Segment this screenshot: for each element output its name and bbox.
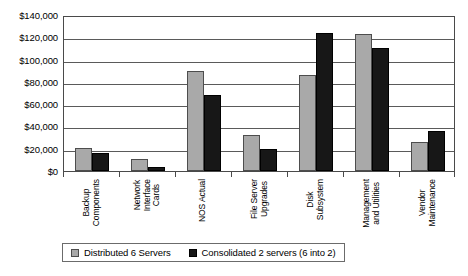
legend-item-label: Consolidated 2 servers (6 into 2)	[202, 248, 336, 258]
x-axis-category-label: Managementand Utilities	[348, 179, 394, 235]
y-axis-tick-label: $0	[2, 167, 58, 177]
x-axis-tick	[175, 172, 176, 177]
x-axis-category-label: BackupComponents	[68, 179, 114, 235]
x-axis-category-label: VendorMaintenance	[404, 179, 450, 235]
x-axis-tick	[454, 172, 455, 177]
bar	[204, 95, 221, 171]
y-axis-tick-label: $20,000	[2, 145, 58, 155]
x-axis: BackupComponentsNetworkInterfaceCardsNOS…	[63, 172, 455, 236]
chart-legend: Distributed 6 ServersConsolidated 2 serv…	[62, 243, 345, 262]
x-axis-category-label-line: Upgrades	[259, 179, 269, 219]
x-axis-category-label-text: DiskSubsystem	[306, 179, 325, 220]
bar-chart: $140,000$120,000$100,000$80,000$60,000$4…	[0, 0, 468, 276]
x-axis-tick	[343, 172, 344, 177]
y-axis-tick-label: $120,000	[2, 33, 58, 43]
bar-group	[120, 17, 176, 171]
x-axis-category-label: DiskSubsystem	[292, 179, 338, 235]
x-axis-tick	[287, 172, 288, 177]
x-axis-category-label-line: and Utilities	[371, 179, 381, 228]
bar	[148, 167, 165, 171]
x-axis-category-label-line: NOS Actual	[198, 179, 208, 222]
bar	[355, 34, 372, 171]
x-axis-category-label-line: Subsystem	[315, 179, 325, 220]
x-axis-category-label-line: Maintenance	[427, 179, 437, 227]
bar	[316, 33, 333, 171]
x-axis-category-label-text: NetworkInterfaceCards	[133, 179, 162, 211]
x-axis-tick	[119, 172, 120, 177]
bar-group	[344, 17, 400, 171]
bar	[75, 148, 92, 171]
bar	[187, 71, 204, 171]
x-axis-category-label: File ServerUpgrades	[236, 179, 282, 235]
x-axis-category-label-text: BackupComponents	[82, 179, 101, 226]
x-axis-tick	[231, 172, 232, 177]
plot-area	[63, 16, 455, 172]
bar	[131, 159, 148, 171]
bar-group	[176, 17, 232, 171]
x-axis-category-label-line: Cards	[152, 179, 162, 211]
y-axis-tick-label: $80,000	[2, 78, 58, 88]
y-axis-tick-label: $140,000	[2, 11, 58, 21]
bar	[299, 75, 316, 171]
black-swatch	[189, 249, 197, 257]
bar	[243, 135, 260, 171]
x-axis-category-label-text: File ServerUpgrades	[250, 179, 269, 219]
x-axis-category-label-text: NOS Actual	[198, 179, 208, 222]
y-axis-tick-labels: $140,000$120,000$100,000$80,000$60,000$4…	[0, 16, 58, 172]
bar	[428, 131, 445, 171]
y-axis-tick-label: $40,000	[2, 122, 58, 132]
bar-group	[288, 17, 344, 171]
legend-item: Distributed 6 Servers	[71, 248, 171, 258]
x-axis-category-label-line: Components	[91, 179, 101, 226]
y-axis-tick-label: $60,000	[2, 100, 58, 110]
bar	[260, 149, 277, 171]
legend-item-label: Distributed 6 Servers	[84, 248, 171, 258]
bar	[372, 48, 389, 171]
x-axis-category-label-text: VendorMaintenance	[418, 179, 437, 227]
bar-group	[400, 17, 456, 171]
y-axis-tick-label: $100,000	[2, 56, 58, 66]
bar	[411, 142, 428, 171]
x-axis-category-label: NetworkInterfaceCards	[124, 179, 170, 235]
x-axis-category-label-text: Managementand Utilities	[362, 179, 381, 228]
legend-item: Consolidated 2 servers (6 into 2)	[189, 248, 336, 258]
x-axis-tick	[399, 172, 400, 177]
bar	[92, 153, 109, 171]
x-axis-tick	[63, 172, 64, 177]
bar-group	[232, 17, 288, 171]
bars-layer	[64, 17, 454, 171]
light-gray-swatch	[71, 249, 79, 257]
x-axis-category-label: NOS Actual	[180, 179, 226, 235]
bar-group	[64, 17, 120, 171]
